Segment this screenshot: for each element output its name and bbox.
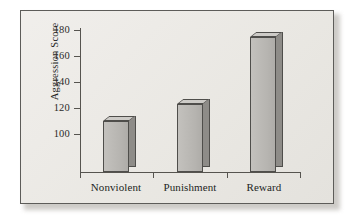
bar-reward — [250, 32, 283, 172]
y-tick-mark-120 — [74, 108, 80, 109]
y-tick-label-100: 100 — [30, 129, 70, 140]
x-category-label-nonviolent: Nonviolent — [76, 182, 156, 193]
bar-punishment-front — [177, 104, 203, 172]
y-axis-line — [80, 28, 81, 173]
x-tick-mark-1 — [153, 172, 154, 178]
x-tick-mark-2 — [227, 172, 228, 178]
bar-reward-side — [276, 32, 283, 167]
y-tick-label-180: 180 — [30, 25, 70, 36]
bar-punishment — [177, 99, 210, 172]
y-tick-mark-180 — [74, 30, 80, 31]
bar-nonviolent — [103, 116, 136, 172]
x-tick-mark-end — [300, 172, 301, 178]
y-tick-label-160: 160 — [30, 51, 70, 62]
x-category-label-punishment: Punishment — [150, 182, 230, 193]
y-tick-label-140: 140 — [30, 77, 70, 88]
bar-reward-front — [250, 37, 276, 172]
figure: Aggression Score 180 160 140 120 100 — [0, 0, 353, 221]
x-category-label-reward: Reward — [224, 182, 304, 193]
bar-punishment-side — [203, 99, 210, 167]
x-tick-mark-start — [80, 172, 81, 178]
y-tick-mark-140 — [74, 82, 80, 83]
y-tick-mark-100 — [74, 134, 80, 135]
bar-nonviolent-front — [103, 121, 129, 172]
x-axis-line — [80, 172, 301, 173]
y-tick-label-120: 120 — [30, 103, 70, 114]
bar-nonviolent-side — [129, 116, 136, 167]
y-tick-mark-160 — [74, 56, 80, 57]
plot-area: Aggression Score 180 160 140 120 100 — [0, 0, 353, 221]
